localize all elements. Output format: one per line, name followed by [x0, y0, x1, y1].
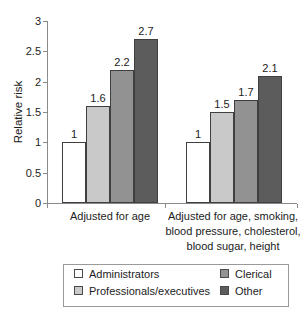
- legend-swatch-clerical: [220, 269, 229, 278]
- legend-label: Clerical: [235, 268, 272, 280]
- y-axis-tick: [43, 203, 47, 204]
- bar-value-label: 2.1: [254, 62, 286, 74]
- y-axis-tick: [43, 142, 47, 143]
- y-tick-label: 0.5: [11, 168, 41, 179]
- bar-clerical-group2: [234, 100, 258, 203]
- y-axis-tick: [43, 51, 47, 52]
- relative-risk-bar-chart: Relative risk 00.511.522.53111.61.52.21.…: [0, 0, 307, 313]
- y-axis-tick: [43, 82, 47, 83]
- y-tick-label: 3: [11, 16, 41, 27]
- bar-other-group1: [134, 39, 158, 203]
- bar-clerical-group1: [110, 70, 134, 203]
- bar-administrators-group2: [186, 142, 210, 203]
- legend-label: Other: [235, 285, 263, 297]
- x-category-label: blood pressure, cholesterol,: [133, 224, 307, 239]
- x-axis-line: [47, 203, 297, 204]
- x-axis-tick: [165, 204, 166, 208]
- y-tick-label: 1: [11, 137, 41, 148]
- bar-value-label: 2.7: [130, 25, 162, 37]
- bar-other-group2: [258, 76, 282, 203]
- y-tick-label: 1.5: [11, 107, 41, 118]
- x-axis-tick: [297, 204, 298, 208]
- bar-professionals-executives-group2: [210, 112, 234, 203]
- x-axis-tick: [47, 204, 48, 208]
- y-tick-label: 2: [11, 77, 41, 88]
- y-tick-label: 2.5: [11, 46, 41, 57]
- x-category-label: blood sugar, height: [133, 239, 307, 254]
- legend-label: Administrators: [89, 268, 159, 280]
- x-category-label: Adjusted for age, smoking,: [133, 209, 307, 224]
- y-axis-tick: [43, 21, 47, 22]
- plot-area: 00.511.522.53111.61.52.21.72.72.1Adjuste…: [0, 0, 307, 313]
- bar-professionals-executives-group1: [86, 106, 110, 203]
- legend-swatch-administrators: [74, 269, 83, 278]
- bar-administrators-group1: [62, 142, 86, 203]
- y-axis-tick: [43, 112, 47, 113]
- y-tick-label: 0: [11, 198, 41, 209]
- y-axis-tick: [43, 173, 47, 174]
- legend-swatch-other: [220, 286, 229, 295]
- legend-label: Professionals/executives: [89, 285, 210, 297]
- y-axis-line: [47, 21, 48, 204]
- legend-swatch-professionals-executives: [74, 286, 83, 295]
